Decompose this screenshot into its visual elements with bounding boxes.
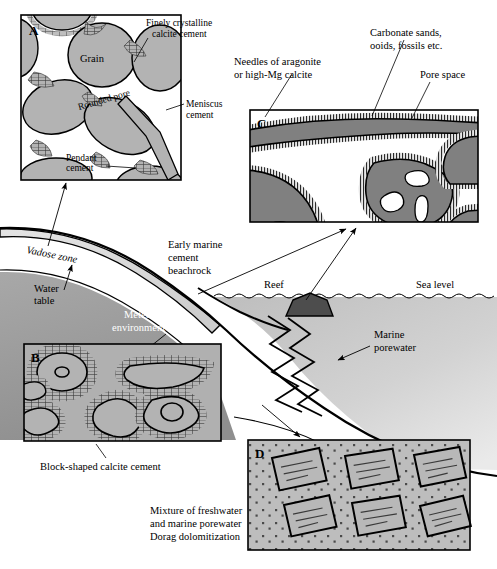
label-early-marine-line3: beachrock [168, 265, 212, 276]
label-meteoric-line1: Meteoric [124, 309, 162, 320]
label-water-table-line2: table [34, 295, 55, 306]
label-needles-line1: Needles of aragonite [234, 56, 321, 67]
label-mixture-line1: Mixture of freshwater [150, 505, 243, 516]
panel-b-labels: Block-shaped calcite cement [40, 444, 161, 472]
label-early-marine-line2: cement [168, 252, 198, 263]
label-mixture-line2: and marine porewater [150, 518, 242, 529]
label-marine-porewater-line1: Marine [374, 329, 405, 340]
panel-b-letter: B [31, 350, 40, 365]
label-meteoric-line2: environment [112, 322, 165, 333]
panel-c-letter: C [257, 116, 266, 131]
panel-d-labels: Mixture of freshwater and marine porewat… [150, 505, 243, 542]
panel-c-grain-center [362, 156, 457, 232]
label-meniscus-line1: Meniscus [186, 99, 223, 109]
label-mixture-line3: Dorag dolomitization [150, 531, 241, 542]
label-block-shaped: Block-shaped calcite cement [40, 461, 161, 472]
label-vadose-zone: Vadose zone [26, 244, 79, 265]
label-finely-crystalline-line1: Finely crystalline [146, 18, 212, 28]
label-pendant-line1: Pendant [66, 153, 97, 163]
panel-c-labels: Needles of aragonite or high-Mg calcite … [234, 27, 466, 118]
connector-to-panel-d [262, 405, 300, 437]
label-finely-crystalline-line2: calcite cement [152, 29, 207, 39]
label-carbonate-line1: Carbonate sands, [370, 27, 442, 38]
label-marine-porewater-line2: porewater [374, 342, 416, 353]
mixing-zone-boundary [234, 417, 320, 443]
label-meniscus-line2: cement [186, 110, 214, 120]
label-pendant-line2: cement [66, 163, 94, 173]
panel-a-letter: A [29, 23, 39, 38]
label-needles-line2: or high-Mg calcite [234, 69, 312, 80]
label-pore-space: Pore space [420, 69, 466, 80]
panel-b: B [16, 344, 221, 441]
label-water-table-line1: Water [34, 283, 59, 294]
panel-d: D [248, 440, 471, 550]
connector-to-panel-c-2 [306, 228, 356, 300]
label-sea-level: Sea level [416, 279, 454, 290]
label-reef: Reef [264, 279, 284, 290]
figure-root: A Finely crystalline calcite cement Grai… [0, 0, 497, 569]
diagram-canvas: A Finely crystalline calcite cement Grai… [0, 0, 497, 569]
panel-d-letter: D [255, 446, 264, 461]
label-grain: Grain [80, 53, 105, 64]
panel-c: C [230, 110, 484, 250]
label-carbonate-line2: ooids, fossils etc. [370, 40, 442, 51]
label-early-marine-line1: Early marine [168, 239, 223, 250]
